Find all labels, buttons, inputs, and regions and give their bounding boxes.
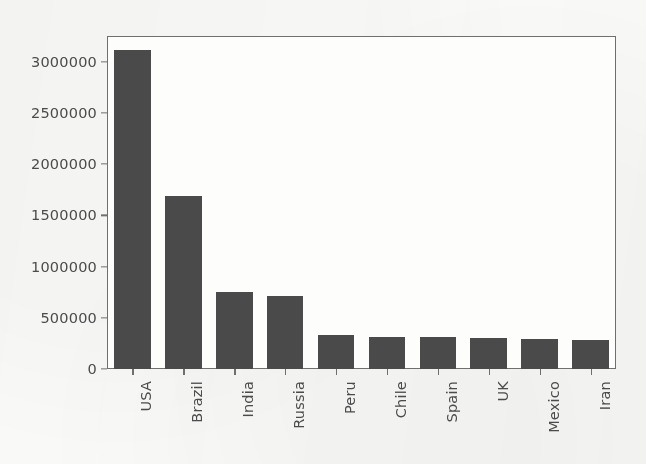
x-tick-label-mexico: Mexico	[546, 381, 562, 433]
x-tick-label-russia: Russia	[291, 381, 307, 429]
y-tick-label: 3000000	[31, 54, 97, 70]
x-tick-mark	[285, 369, 286, 375]
x-tick-mark	[387, 369, 388, 375]
y-axis: 0500000100000015000002000000250000030000…	[0, 0, 107, 464]
x-tick-mark	[489, 369, 490, 375]
x-tick-label-brazil: Brazil	[189, 381, 205, 423]
x-tick-label-india: India	[240, 381, 256, 418]
x-tick-mark	[540, 369, 541, 375]
x-tick-label-iran: Iran	[597, 381, 613, 410]
y-tick-mark	[101, 61, 107, 62]
y-tick-label: 1500000	[31, 207, 97, 223]
y-tick-label: 2500000	[31, 105, 97, 121]
x-tick-label-chile: Chile	[393, 381, 409, 418]
y-tick-mark	[101, 368, 107, 369]
y-tick-mark	[101, 317, 107, 318]
y-tick-label: 2000000	[31, 156, 97, 172]
x-tick-mark	[234, 369, 235, 375]
x-tick-label-spain: Spain	[444, 381, 460, 423]
y-tick-mark	[101, 266, 107, 267]
x-tick-mark	[336, 369, 337, 375]
y-tick-mark	[101, 215, 107, 216]
x-tick-mark	[132, 369, 133, 375]
y-tick-label: 500000	[40, 310, 97, 326]
x-tick-mark	[438, 369, 439, 375]
y-tick-mark	[101, 163, 107, 164]
x-tick-mark	[183, 369, 184, 375]
y-tick-mark	[101, 112, 107, 113]
y-tick-label: 1000000	[31, 259, 97, 275]
y-tick-label: 0	[88, 361, 97, 377]
x-tick-label-uk: UK	[495, 381, 511, 402]
x-tick-mark	[591, 369, 592, 375]
plot-area-frame	[107, 36, 616, 369]
chart-figure: 0500000100000015000002000000250000030000…	[0, 0, 646, 464]
x-tick-label-peru: Peru	[342, 381, 358, 414]
x-tick-label-usa: USA	[138, 381, 154, 412]
